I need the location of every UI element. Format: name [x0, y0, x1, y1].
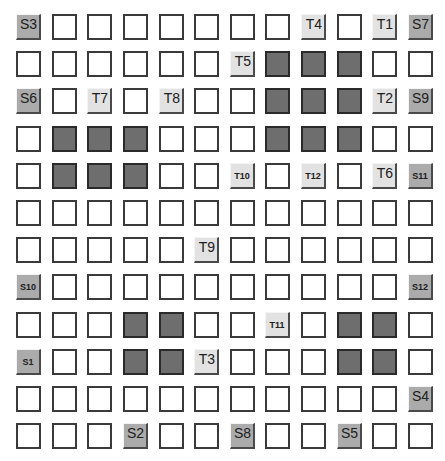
obstacle-cell[interactable] — [159, 312, 184, 338]
empty-cell[interactable] — [372, 423, 397, 449]
empty-cell[interactable] — [159, 14, 184, 40]
empty-cell[interactable] — [265, 163, 290, 189]
empty-cell[interactable] — [230, 88, 255, 114]
empty-cell[interactable] — [408, 237, 433, 263]
empty-cell[interactable] — [16, 51, 41, 77]
empty-cell[interactable] — [408, 312, 433, 338]
empty-cell[interactable] — [408, 423, 433, 449]
empty-cell[interactable] — [265, 349, 290, 375]
empty-cell[interactable] — [194, 312, 219, 338]
empty-cell[interactable] — [194, 200, 219, 226]
source-cell-s2[interactable]: S2 — [123, 423, 148, 449]
empty-cell[interactable] — [159, 386, 184, 412]
empty-cell[interactable] — [337, 200, 362, 226]
empty-cell[interactable] — [159, 126, 184, 152]
empty-cell[interactable] — [123, 88, 148, 114]
empty-cell[interactable] — [16, 163, 41, 189]
obstacle-cell[interactable] — [87, 126, 112, 152]
source-cell-s12[interactable]: S12 — [408, 274, 433, 300]
obstacle-cell[interactable] — [337, 51, 362, 77]
obstacle-cell[interactable] — [301, 51, 326, 77]
source-cell-s9[interactable]: S9 — [408, 88, 433, 114]
empty-cell[interactable] — [194, 51, 219, 77]
obstacle-cell[interactable] — [123, 126, 148, 152]
empty-cell[interactable] — [52, 51, 77, 77]
empty-cell[interactable] — [337, 386, 362, 412]
empty-cell[interactable] — [159, 163, 184, 189]
obstacle-cell[interactable] — [159, 349, 184, 375]
target-cell-t12[interactable]: T12 — [301, 163, 326, 189]
empty-cell[interactable] — [52, 312, 77, 338]
empty-cell[interactable] — [194, 274, 219, 300]
source-cell-s3[interactable]: S3 — [16, 14, 41, 40]
source-cell-s11[interactable]: S11 — [408, 163, 433, 189]
empty-cell[interactable] — [123, 14, 148, 40]
empty-cell[interactable] — [408, 349, 433, 375]
target-cell-t5[interactable]: T5 — [230, 51, 255, 77]
obstacle-cell[interactable] — [337, 88, 362, 114]
empty-cell[interactable] — [159, 274, 184, 300]
target-cell-t10[interactable]: T10 — [230, 163, 255, 189]
obstacle-cell[interactable] — [87, 163, 112, 189]
empty-cell[interactable] — [52, 386, 77, 412]
empty-cell[interactable] — [301, 200, 326, 226]
empty-cell[interactable] — [301, 274, 326, 300]
empty-cell[interactable] — [87, 14, 112, 40]
empty-cell[interactable] — [372, 51, 397, 77]
empty-cell[interactable] — [159, 51, 184, 77]
empty-cell[interactable] — [52, 237, 77, 263]
obstacle-cell[interactable] — [372, 312, 397, 338]
obstacle-cell[interactable] — [123, 349, 148, 375]
obstacle-cell[interactable] — [52, 163, 77, 189]
obstacle-cell[interactable] — [337, 312, 362, 338]
empty-cell[interactable] — [230, 349, 255, 375]
target-cell-t7[interactable]: T7 — [87, 88, 112, 114]
empty-cell[interactable] — [230, 274, 255, 300]
empty-cell[interactable] — [87, 423, 112, 449]
empty-cell[interactable] — [372, 200, 397, 226]
obstacle-cell[interactable] — [123, 163, 148, 189]
empty-cell[interactable] — [16, 423, 41, 449]
empty-cell[interactable] — [52, 423, 77, 449]
target-cell-t9[interactable]: T9 — [194, 237, 219, 263]
empty-cell[interactable] — [87, 386, 112, 412]
source-cell-s7[interactable]: S7 — [408, 14, 433, 40]
empty-cell[interactable] — [265, 237, 290, 263]
obstacle-cell[interactable] — [301, 126, 326, 152]
empty-cell[interactable] — [159, 423, 184, 449]
empty-cell[interactable] — [194, 126, 219, 152]
empty-cell[interactable] — [123, 274, 148, 300]
empty-cell[interactable] — [230, 200, 255, 226]
empty-cell[interactable] — [230, 126, 255, 152]
empty-cell[interactable] — [194, 423, 219, 449]
obstacle-cell[interactable] — [337, 349, 362, 375]
empty-cell[interactable] — [194, 163, 219, 189]
source-cell-s8[interactable]: S8 — [230, 423, 255, 449]
empty-cell[interactable] — [301, 386, 326, 412]
target-cell-t3[interactable]: T3 — [194, 349, 219, 375]
empty-cell[interactable] — [87, 312, 112, 338]
empty-cell[interactable] — [372, 237, 397, 263]
empty-cell[interactable] — [408, 51, 433, 77]
obstacle-cell[interactable] — [265, 126, 290, 152]
obstacle-cell[interactable] — [52, 126, 77, 152]
empty-cell[interactable] — [372, 126, 397, 152]
target-cell-t6[interactable]: T6 — [372, 163, 397, 189]
obstacle-cell[interactable] — [123, 312, 148, 338]
target-cell-t1[interactable]: T1 — [372, 14, 397, 40]
empty-cell[interactable] — [16, 126, 41, 152]
empty-cell[interactable] — [16, 312, 41, 338]
empty-cell[interactable] — [265, 200, 290, 226]
empty-cell[interactable] — [301, 237, 326, 263]
empty-cell[interactable] — [87, 200, 112, 226]
empty-cell[interactable] — [194, 88, 219, 114]
empty-cell[interactable] — [16, 200, 41, 226]
obstacle-cell[interactable] — [265, 51, 290, 77]
source-cell-s10[interactable]: S10 — [16, 274, 41, 300]
empty-cell[interactable] — [337, 274, 362, 300]
empty-cell[interactable] — [337, 14, 362, 40]
empty-cell[interactable] — [194, 14, 219, 40]
empty-cell[interactable] — [52, 274, 77, 300]
source-cell-s1[interactable]: S1 — [16, 349, 41, 375]
empty-cell[interactable] — [408, 126, 433, 152]
